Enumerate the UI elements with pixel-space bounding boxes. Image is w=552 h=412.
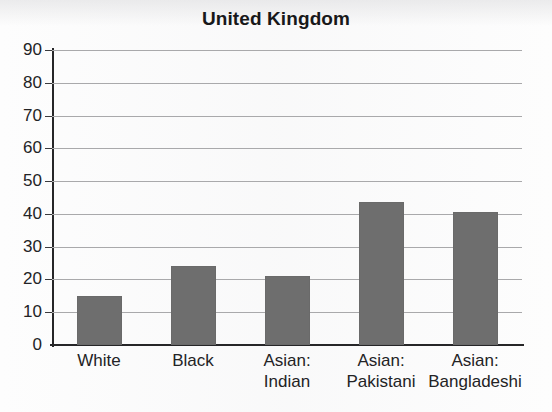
x-axis-label-line: White: [52, 350, 146, 371]
bar: [359, 202, 404, 345]
gridline: [52, 50, 522, 51]
x-axis-label-line: Asian:: [428, 350, 522, 371]
x-axis-label: Asian:Pakistani: [334, 350, 428, 392]
x-axis-label-line: Asian:: [334, 350, 428, 371]
y-axis-tick-label: 40: [2, 204, 42, 224]
gridline: [52, 116, 522, 117]
bar: [453, 212, 498, 345]
y-axis-tick-label: 90: [2, 40, 42, 60]
gridline: [52, 214, 522, 215]
y-axis-tick-label: 70: [2, 106, 42, 126]
bar: [77, 296, 122, 345]
y-axis-tick-label: 80: [2, 73, 42, 93]
y-axis-tick-mark: [45, 279, 52, 280]
x-axis-label-line: Black: [146, 350, 240, 371]
y-axis-tick-label: 50: [2, 171, 42, 191]
y-axis-tick-label: 30: [2, 237, 42, 257]
y-axis-tick-mark: [45, 148, 52, 149]
y-axis-tick-mark: [45, 312, 52, 313]
y-axis-tick-label: 20: [2, 269, 42, 289]
chart-figure: United Kingdom 9080706050403020100 White…: [0, 0, 552, 412]
x-axis-label: White: [52, 350, 146, 371]
y-axis-tick-mark: [45, 50, 52, 51]
y-axis-tick-mark: [45, 116, 52, 117]
x-axis-label-line: Bangladeshi: [428, 371, 522, 392]
gridline: [52, 181, 522, 182]
x-axis-label-line: Indian: [240, 371, 334, 392]
x-axis-label-line: Pakistani: [334, 371, 428, 392]
bar: [171, 266, 216, 345]
gridline: [52, 247, 522, 248]
x-axis-label: Asian:Bangladeshi: [428, 350, 522, 392]
y-axis-tick-mark: [45, 247, 52, 248]
y-axis-tick-mark: [45, 83, 52, 84]
y-axis-tick-label: 10: [2, 302, 42, 322]
gridline: [52, 148, 522, 149]
x-axis-label: Asian:Indian: [240, 350, 334, 392]
x-axis-label-line: Asian:: [240, 350, 334, 371]
y-axis-tick-label: 60: [2, 138, 42, 158]
plot-area: [52, 50, 522, 345]
gridline: [52, 83, 522, 84]
x-axis-category-labels: WhiteBlackAsian:IndianAsian:PakistaniAsi…: [0, 350, 552, 410]
chart-title: United Kingdom: [0, 8, 552, 30]
y-axis-tick-mark: [45, 181, 52, 182]
y-axis-tick-mark: [45, 214, 52, 215]
bar: [265, 276, 310, 345]
x-axis-label: Black: [146, 350, 240, 371]
